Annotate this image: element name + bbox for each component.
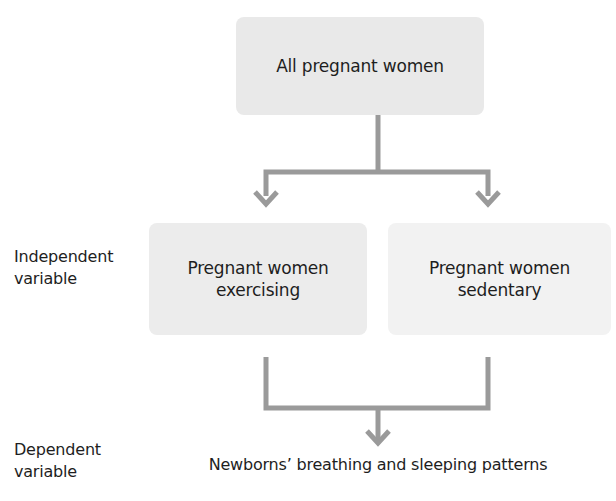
independent-variable-label: Independent variable: [14, 246, 113, 290]
exercising-label-line2: exercising: [187, 279, 328, 301]
top-box-label: All pregnant women: [276, 55, 444, 77]
exercising-label-line1: Pregnant women: [187, 257, 328, 279]
sedentary-label-line2: sedentary: [429, 279, 570, 301]
split-bracket-line: [266, 172, 488, 196]
dependent-variable-label: Dependent variable: [14, 439, 101, 483]
all-pregnant-women-box: All pregnant women: [236, 17, 484, 115]
exercising-group-box: Pregnant women exercising: [149, 223, 367, 335]
independent-label-line1: Independent: [14, 246, 113, 268]
sedentary-label-line1: Pregnant women: [429, 257, 570, 279]
sedentary-group-box: Pregnant women sedentary: [388, 223, 611, 335]
merge-bracket-line: [266, 357, 488, 408]
dependent-label-line1: Dependent: [14, 439, 101, 461]
exercising-group-label: Pregnant women exercising: [187, 257, 328, 301]
dependent-label-line2: variable: [14, 461, 101, 483]
outcome-label: Newborns’ breathing and sleeping pattern…: [160, 454, 596, 476]
independent-label-line2: variable: [14, 268, 113, 290]
sedentary-group-label: Pregnant women sedentary: [429, 257, 570, 301]
